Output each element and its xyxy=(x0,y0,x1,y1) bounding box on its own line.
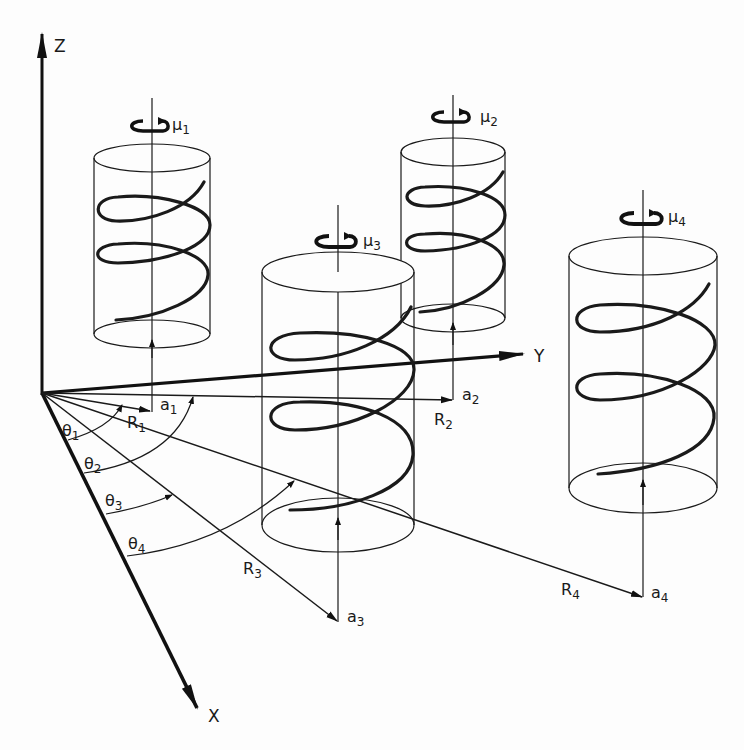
rotation-arrow-head-icon xyxy=(649,209,657,217)
a4-label: a4 xyxy=(651,583,668,605)
r3-vector xyxy=(42,393,337,621)
helix-1-rotation: μ1 xyxy=(132,115,190,137)
mu3-label: μ3 xyxy=(363,231,381,253)
a3-label: a3 xyxy=(347,607,364,629)
theta4-label: θ4 xyxy=(128,534,145,556)
helix-3-rotation: μ3 xyxy=(316,231,381,253)
rotation-arrow-head-icon xyxy=(158,117,166,125)
helix-cylinder-2: μ2 a2 xyxy=(401,95,505,407)
r2-label: R2 xyxy=(434,410,453,432)
helix-3-coil xyxy=(271,307,414,510)
y-axis-label: Y xyxy=(533,346,545,366)
x-axis xyxy=(42,393,197,708)
theta2-label: θ2 xyxy=(84,454,101,476)
rotation-arrow-head-icon xyxy=(459,108,467,116)
mu1-label: μ1 xyxy=(172,115,190,137)
z-axis-label: Z xyxy=(54,36,66,56)
angle-arcs: θ1 θ2 θ3 θ4 xyxy=(62,397,294,556)
x-axis-label: X xyxy=(208,706,220,726)
theta3-label: θ3 xyxy=(105,491,122,513)
diagram-canvas: Z Y X θ1 θ2 θ3 θ4 R1 R2 R3 R4 xyxy=(0,0,744,750)
helix-coordinate-diagram: Z Y X θ1 θ2 θ3 θ4 R1 R2 R3 R4 xyxy=(0,0,744,750)
helix-2-rotation: μ2 xyxy=(433,107,498,129)
helix-cylinder-3: μ3 a3 xyxy=(262,205,414,629)
helix-1-coil xyxy=(98,182,210,320)
mu4-label: μ4 xyxy=(668,207,686,229)
helix-cylinder-1: μ1 a1 xyxy=(94,98,210,417)
theta4-arc xyxy=(127,481,294,556)
r4-label: R4 xyxy=(561,580,580,602)
a1-label: a1 xyxy=(160,395,177,417)
r2-vector xyxy=(42,393,452,400)
helix-2-coil xyxy=(407,172,505,312)
coordinate-axes: Z Y X xyxy=(42,34,545,726)
rotation-arrow-icon xyxy=(621,213,662,224)
helix-cylinder-4: μ4 a4 xyxy=(569,190,717,605)
r1-vector xyxy=(42,393,150,411)
rotation-arrow-icon xyxy=(316,236,356,247)
r3-label: R3 xyxy=(243,559,262,581)
helix-4-rotation: μ4 xyxy=(621,207,686,229)
helix-4-coil xyxy=(577,284,715,474)
a2-label: a2 xyxy=(462,385,479,407)
theta1-label: θ1 xyxy=(62,421,79,443)
mu2-label: μ2 xyxy=(480,107,498,129)
r1-label: R1 xyxy=(127,413,146,435)
rotation-arrow-head-icon xyxy=(344,232,352,240)
